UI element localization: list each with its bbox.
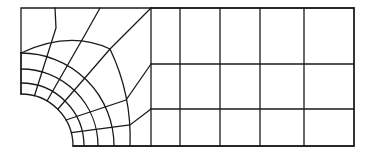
radial-line — [47, 8, 100, 101]
mesh-arc-outer — [21, 40, 130, 146]
radial-line — [34, 8, 56, 96]
mesh-arc — [21, 53, 114, 146]
mesh-diagram — [0, 0, 373, 157]
